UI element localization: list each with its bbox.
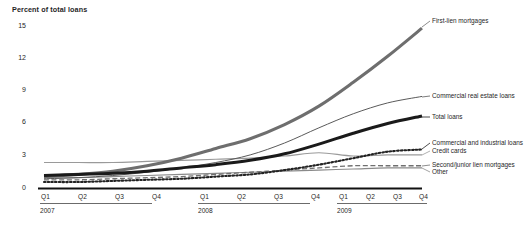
series-line-credit-cards xyxy=(44,153,422,163)
x-tick-2009-q4: Q4 xyxy=(419,193,428,200)
legend-label-first-lien-mortgages: First-lien mortgages xyxy=(432,17,488,25)
leader-line-second-lien xyxy=(422,165,430,166)
x-tick-2008-q1: Q1 xyxy=(200,193,209,200)
x-tick-2009-q3: Q3 xyxy=(393,193,402,200)
legend-label-commercial-industrial-loans: Commercial and industrial loans xyxy=(432,139,523,147)
x-year-2007: 2007 xyxy=(40,207,55,214)
year-rule-2009 xyxy=(337,203,427,204)
legend-label-total-loans: Total loans xyxy=(432,113,463,121)
leader-line-ci xyxy=(422,143,430,149)
series-line-first-lien-mortgages xyxy=(44,28,422,176)
series-line-commercial-real-estate-loans xyxy=(44,96,422,178)
series-line-total-loans xyxy=(44,116,422,176)
year-rule-2007 xyxy=(40,203,152,204)
x-tick-2007-q3: Q3 xyxy=(115,193,124,200)
x-year-2009: 2009 xyxy=(337,207,352,214)
chart-container: Percent of total loans 15 12 9 6 3 0 Q1 … xyxy=(0,0,530,229)
x-tick-2008-q2: Q2 xyxy=(237,193,246,200)
leader-line-first-lien xyxy=(422,21,430,27)
leader-line-other xyxy=(422,168,430,172)
leader-line-cre xyxy=(422,96,430,97)
x-tick-2007-q1: Q1 xyxy=(41,193,50,200)
x-tick-2009-q1: Q1 xyxy=(339,193,348,200)
x-tick-2008-q3: Q3 xyxy=(274,193,283,200)
leader-line-credit-cards xyxy=(422,151,430,155)
x-tick-2007-q2: Q2 xyxy=(78,193,87,200)
x-tick-2009-q2: Q2 xyxy=(366,193,375,200)
legend-label-commercial-real-estate-loans: Commercial real estate loans xyxy=(432,92,515,100)
year-rule-2008 xyxy=(198,203,310,204)
legend-label-other: Other xyxy=(432,168,448,176)
x-year-2008: 2008 xyxy=(198,207,213,214)
legend-label-credit-cards: Credit cards xyxy=(432,147,466,155)
x-tick-2007-q4: Q4 xyxy=(152,193,161,200)
x-tick-2008-q4: Q4 xyxy=(311,193,320,200)
